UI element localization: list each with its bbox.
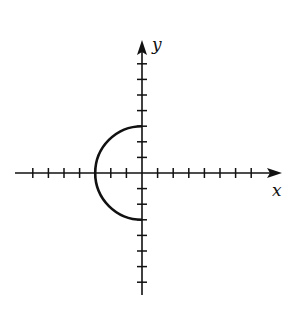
y-axis-label: y	[151, 34, 162, 54]
coordinate-plane: x y	[0, 0, 300, 315]
x-axis-label: x	[272, 180, 282, 200]
